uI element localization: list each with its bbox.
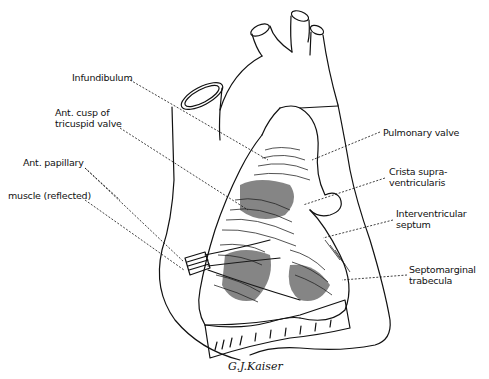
leader-lines — [85, 80, 407, 280]
label-septomarginal-trabecula: Septomarginaltrabecula — [409, 264, 476, 286]
label-muscle-reflected: muscle (reflected) — [8, 190, 91, 201]
leader-ant-papillary — [85, 168, 184, 262]
leader-septomarginal — [342, 275, 407, 280]
label-crista-supraventricularis: Crista supra-ventricularis — [389, 166, 447, 188]
artist-signature: G.J.Kaiser — [228, 360, 283, 373]
label-ant-papillary: Ant. papillary — [23, 157, 84, 168]
label-interventricular-septum: Interventricularseptum — [396, 208, 466, 230]
label-infundibulum: Infundibulum — [72, 72, 132, 83]
leader-pulmonary-valve — [312, 132, 380, 160]
great-vessels — [220, 9, 338, 110]
leader-crista — [303, 178, 385, 205]
vessel-left — [159, 77, 240, 360]
heart-outline — [250, 105, 390, 355]
label-ant-cusp-tricuspid-valve: Ant. cusp oftricuspid valve — [55, 107, 122, 129]
leader-ant-cusp — [120, 128, 248, 210]
label-pulmonary-valve: Pulmonary valve — [383, 127, 459, 138]
dark-cavity — [222, 180, 330, 301]
leader-septum — [323, 220, 393, 238]
leader-muscle — [85, 200, 184, 270]
